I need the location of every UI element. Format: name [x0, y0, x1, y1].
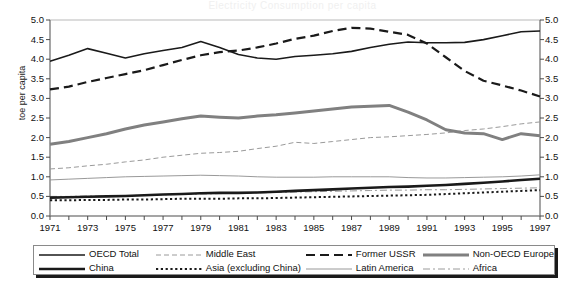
legend-label: OECD Total: [89, 248, 139, 259]
legend-swatch-icon: [38, 247, 86, 259]
legend-item[interactable]: Africa: [418, 261, 554, 273]
legend-item[interactable]: Latin America: [301, 261, 418, 273]
legend-label: Non-OECD Europe: [473, 248, 554, 259]
series-line-china: [50, 179, 540, 198]
legend-item[interactable]: Middle East: [151, 247, 301, 259]
legend-item[interactable]: Former USSR: [301, 247, 418, 259]
legend-label: Latin America: [356, 262, 414, 273]
legend-label: Middle East: [206, 248, 256, 259]
legend-label: Africa: [473, 262, 497, 273]
series-line-former-ussr: [50, 28, 540, 97]
series-line-oecd-total: [50, 31, 540, 61]
chart-legend: OECD TotalChinaMiddle EastAsia (excludin…: [33, 245, 555, 275]
legend-item[interactable]: Asia (excluding China): [151, 261, 301, 273]
legend-swatch-icon: [155, 247, 203, 259]
legend-label: Former USSR: [356, 248, 416, 259]
legend-item[interactable]: China: [34, 261, 151, 273]
legend-swatch-icon: [38, 261, 86, 273]
legend-swatch-icon: [305, 261, 353, 273]
plot-frame: [50, 20, 540, 216]
legend-label: Asia (excluding China): [206, 262, 301, 273]
legend-item[interactable]: Non-OECD Europe: [418, 247, 554, 259]
legend-label: China: [89, 262, 114, 273]
legend-swatch-icon: [422, 261, 470, 273]
legend-swatch-icon: [305, 247, 353, 259]
legend-swatch-icon: [422, 247, 470, 259]
legend-item[interactable]: OECD Total: [34, 247, 151, 259]
series-line-latin-america: [50, 175, 540, 180]
plot-area: [0, 0, 585, 284]
chart-root: Electricity Consumption per capita toe p…: [0, 0, 585, 284]
legend-swatch-icon: [155, 261, 203, 273]
series-line-non-oecd-europe: [50, 105, 540, 144]
